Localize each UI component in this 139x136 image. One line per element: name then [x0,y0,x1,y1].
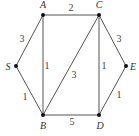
edge-weight-a-b: 1 [45,60,50,71]
edge-weight-c-e: 3 [117,33,122,44]
node-e-dot-icon [124,64,128,68]
node-label-s: S [6,61,11,72]
edge-weight-s-b: 1 [23,91,28,102]
edge-c-e [99,15,126,66]
node-a-dot-icon [41,13,45,17]
node-label-b: B [40,120,46,131]
edge-weight-labels: 231131315 [20,2,122,127]
node-label-a: A [39,0,47,10]
node-d-dot-icon [97,113,101,117]
node-label-d: D [95,120,104,131]
edge-weight-s-a: 3 [20,33,25,44]
edge-b-c [43,15,99,115]
edge-s-b [16,66,43,115]
node-c-dot-icon [97,13,101,17]
node-s-dot-icon [14,64,18,68]
edge-weight-b-c: 3 [72,69,77,80]
node-label-e: E [129,61,136,72]
edge-weight-c-d: 1 [102,60,107,71]
graph-edges [16,15,126,115]
node-b-dot-icon [41,113,45,117]
edge-d-e [99,66,126,115]
node-label-c: C [96,0,103,10]
edge-weight-a-c: 2 [69,2,74,13]
edge-weight-b-d: 5 [70,116,75,127]
edge-weight-d-e: 1 [117,89,122,100]
weighted-graph-diagram: 231131315 ACSEBD [0,0,139,136]
